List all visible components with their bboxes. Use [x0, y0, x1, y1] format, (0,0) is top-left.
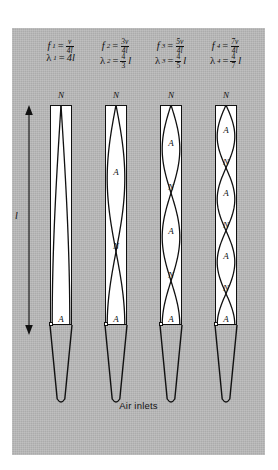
freq-symbol-4: f [212, 41, 215, 52]
lambda-denominator-4: 7 [230, 61, 236, 70]
pipe-3-label-node-4: N [164, 270, 178, 280]
wavelength-equation-2: λ2 = 4 3 l [88, 53, 143, 68]
lambda-numerator-2: 4 [120, 53, 126, 61]
lambda-denominator-3: 5 [175, 61, 181, 70]
lambda-denominator-2: 3 [120, 61, 126, 70]
lambda-numerator-4: 4 [230, 53, 236, 61]
pipe-4-label-antinode-3: A [219, 188, 233, 198]
freq-equals-2: = [112, 41, 118, 52]
wavelength-equation-4: λ4 = 4 7 l [198, 53, 253, 68]
mode-column-2: f2 = 3v 4l λ2 = 4 3 l [88, 38, 143, 68]
standing-wave-figure: l f1 = v 4l λ1 = 4l f2 = [12, 28, 265, 455]
pipe-length-arrow [21, 105, 37, 335]
freq-numerator-4: 7v [230, 38, 239, 46]
pipe-2-label-node-top: N [109, 90, 123, 100]
pipe-1-wave-envelope [50, 105, 72, 325]
lambda-numerator-3: 4 [175, 53, 181, 61]
lambda-suffix-4: l [238, 56, 241, 67]
freq-index-3: 3 [162, 43, 166, 50]
freq-numerator-2: 3v [120, 38, 129, 46]
pipe-1-air-inlet [48, 325, 74, 403]
frequency-equation-4: f4 = 7v 4l [198, 38, 253, 53]
frequency-equation-1: f1 = v 4l [33, 38, 88, 53]
page-header [0, 0, 278, 16]
frequency-equation-3: f3 = 5v 4l [143, 38, 198, 53]
mode-column-1: f1 = v 4l λ1 = 4l [33, 38, 88, 68]
lambda-suffix-3: l [183, 56, 186, 67]
pipe-4-label-node-6: N [219, 283, 233, 293]
figure-caption: Air inlets [12, 400, 265, 411]
pipe-3-label-antinode-5: A [164, 314, 178, 324]
freq-symbol-1: f [47, 41, 50, 52]
pipe-4-label-node-top: N [219, 90, 233, 100]
pipe-3-label-antinode-3: A [164, 226, 178, 236]
freq-index-2: 2 [107, 43, 111, 50]
pipe-4-air-inlet [213, 325, 239, 403]
lambda-equals-1: = [59, 53, 65, 64]
lambda-index-4: 4 [217, 58, 221, 65]
pipe-3-label-node-top: N [164, 90, 178, 100]
pipe-3-label-node-2: N [164, 182, 178, 192]
pipe-4-label-node-2: N [219, 157, 233, 167]
freq-equals-3: = [167, 41, 173, 52]
lambda-suffix-2: l [128, 56, 131, 67]
freq-numerator-3: 5v [175, 38, 184, 46]
pipe-1-label-node-top: N [54, 90, 68, 100]
pipe-3-air-inlet [158, 325, 184, 403]
lambda-index-3: 3 [162, 58, 166, 65]
pipe-4-label-node-4: N [219, 220, 233, 230]
mode-column-3: f3 = 5v 4l λ3 = 4 5 l [143, 38, 198, 68]
pipe-2-label-antinode-1: A [109, 167, 123, 177]
mode-column-4: f4 = 7v 4l λ4 = 4 7 l [198, 38, 253, 68]
pipe-4-label-antinode-7: A [219, 314, 233, 324]
wavelength-equation-1: λ1 = 4l [33, 53, 88, 68]
lambda-equals-2: = [113, 56, 119, 67]
lambda-index-2: 2 [107, 58, 111, 65]
lambda-symbol-4: λ [210, 56, 215, 67]
wavelength-equation-3: λ3 = 4 5 l [143, 53, 198, 68]
lambda-index-1: 1 [53, 55, 57, 62]
pipe-2-label-node-2: N [109, 241, 123, 251]
pipe-4-label-antinode-5: A [219, 251, 233, 261]
pipe-3-label-antinode-1: A [164, 138, 178, 148]
pipe-1-label-antinode-1: A [54, 314, 68, 324]
lambda-symbol-3: λ [155, 56, 160, 67]
lambda-equals-4: = [223, 56, 229, 67]
pipe-2-label-antinode-3: A [109, 314, 123, 324]
freq-index-1: 1 [52, 43, 56, 50]
freq-symbol-3: f [157, 41, 160, 52]
freq-equals-1: = [58, 41, 64, 52]
pipe-length-label: l [15, 210, 18, 221]
freq-equals-4: = [222, 41, 228, 52]
lambda-symbol-1: λ [46, 53, 51, 64]
frequency-equation-2: f2 = 3v 4l [88, 38, 143, 53]
lambda-equals-3: = [168, 56, 174, 67]
pipe-4-label-antinode-1: A [219, 125, 233, 135]
freq-index-4: 4 [217, 43, 221, 50]
lambda-value-1: 4l [67, 53, 75, 64]
freq-numerator-1: v [67, 38, 72, 46]
pipe-2-wave-envelope [105, 105, 127, 325]
freq-symbol-2: f [102, 41, 105, 52]
pipe-2-air-inlet [103, 325, 129, 403]
lambda-symbol-2: λ [100, 56, 105, 67]
